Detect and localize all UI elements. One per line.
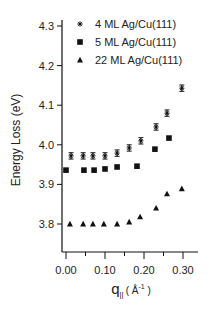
legend-item: 5 ML Ag/Cu(111) — [77, 36, 176, 48]
triangle-marker — [114, 221, 120, 227]
square-marker — [91, 167, 97, 173]
y-tick-label: 4.1 — [39, 99, 54, 111]
x-axis-title-unit-close: ) — [145, 285, 151, 296]
x-tick-label: 0.00 — [55, 264, 76, 276]
energy-loss-dispersion-chart: 3.83.94.04.14.24.30.000.100.200.30 4 ML … — [0, 0, 208, 322]
asterisk-marker — [81, 153, 86, 158]
legend-item: 22 ML Ag/Cu(111) — [77, 54, 182, 66]
asterisk-marker — [114, 151, 119, 156]
triangle-marker — [164, 191, 170, 197]
triangle-marker — [101, 221, 107, 227]
legend-label: 4 ML Ag/Cu(111) — [95, 18, 176, 30]
series-asterisk — [68, 85, 184, 159]
x-tick-label: 0.10 — [94, 264, 115, 276]
x-tick-label: 0.20 — [133, 264, 154, 276]
triangle-marker — [90, 221, 96, 227]
square-marker — [166, 135, 172, 141]
triangle-marker — [137, 214, 143, 220]
asterisk-marker — [102, 153, 107, 158]
y-axis-title: Energy Loss (eV) — [9, 94, 23, 187]
square-marker — [81, 167, 87, 173]
square-marker — [77, 39, 83, 45]
asterisk-marker — [153, 124, 158, 129]
x-axis-title-main: q — [111, 280, 119, 297]
triangle-marker — [77, 57, 83, 63]
triangle-marker — [153, 205, 159, 211]
x-tick-label: 0.30 — [172, 264, 193, 276]
square-marker — [134, 163, 140, 169]
square-marker — [102, 166, 108, 172]
legend-item: 4 ML Ag/Cu(111) — [77, 18, 176, 30]
triangle-marker — [126, 219, 132, 225]
y-tick-label: 3.8 — [39, 218, 54, 230]
triangle-marker — [179, 186, 185, 192]
x-axis-title: q||( Å-1 ) — [111, 280, 151, 299]
legend-label: 22 ML Ag/Cu(111) — [95, 54, 182, 66]
data-series — [63, 85, 185, 226]
asterisk-marker — [127, 145, 132, 150]
legend: 4 ML Ag/Cu(111)5 ML Ag/Cu(111)22 ML Ag/C… — [77, 18, 182, 66]
asterisk-marker — [77, 21, 82, 26]
square-marker — [152, 146, 158, 152]
axis-titles: Energy Loss (eV) q||( Å-1 ) — [9, 94, 151, 299]
asterisk-marker — [138, 138, 143, 143]
y-tick-label: 4.0 — [39, 139, 54, 151]
asterisk-marker — [164, 111, 169, 116]
asterisk-marker — [179, 86, 184, 91]
series-triangle — [67, 186, 185, 227]
square-marker — [63, 167, 69, 173]
y-tick-label: 4.2 — [39, 60, 54, 72]
x-axis-title-unit: ( Å — [126, 284, 139, 296]
triangle-marker — [67, 221, 73, 227]
x-axis-title-sub: || — [120, 290, 124, 299]
y-tick-label: 4.3 — [39, 20, 54, 32]
y-tick-label: 3.9 — [39, 178, 54, 190]
asterisk-marker — [68, 153, 73, 158]
triangle-marker — [80, 221, 86, 227]
asterisk-marker — [90, 153, 95, 158]
square-marker — [114, 164, 120, 170]
legend-label: 5 ML Ag/Cu(111) — [95, 36, 176, 48]
